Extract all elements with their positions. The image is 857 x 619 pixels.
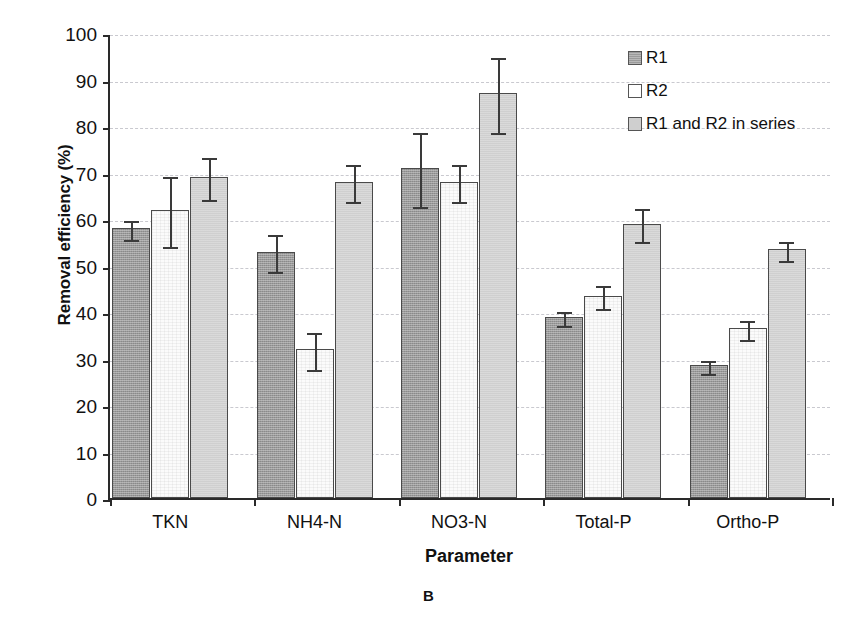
error-bar-cap-lower xyxy=(163,247,178,249)
legend-label: R2 xyxy=(646,81,668,101)
y-tick-label: 100 xyxy=(65,24,97,46)
error-bar-cap-lower xyxy=(413,207,428,209)
gridline xyxy=(110,175,830,176)
error-bar-cap-upper xyxy=(491,58,506,60)
bar-total-p-series-3 xyxy=(623,224,661,498)
x-tick-mark xyxy=(543,498,545,506)
legend-item: R1 and R2 in series xyxy=(628,114,795,134)
y-tick-mark xyxy=(103,454,110,456)
error-bar-cap-lower xyxy=(740,340,755,342)
error-bar-cap-lower xyxy=(701,374,716,376)
error-bar-cap-lower xyxy=(307,370,322,372)
bar-total-p-series-1 xyxy=(545,317,583,498)
error-bar-cap-upper xyxy=(596,286,611,288)
y-tick-mark xyxy=(103,82,110,84)
y-tick-label: 0 xyxy=(86,489,97,511)
error-bar-cap-upper xyxy=(202,158,217,160)
y-tick-mark xyxy=(103,35,110,37)
bar-nh4-n-series-1 xyxy=(257,252,295,498)
y-tick-label: 60 xyxy=(76,210,97,232)
legend-swatch-icon xyxy=(628,84,642,98)
y-tick-mark xyxy=(103,221,110,223)
error-bar-cap-upper xyxy=(413,133,428,135)
bar-total-p-series-2 xyxy=(584,296,622,498)
error-bar-cap-upper xyxy=(346,165,361,167)
y-tick-mark xyxy=(103,175,110,177)
y-tick-mark xyxy=(103,128,110,130)
y-tick-mark xyxy=(103,314,110,316)
error-bar-cap-lower xyxy=(268,272,283,274)
bar-tkn-series-1 xyxy=(112,228,150,498)
error-bar-cap-upper xyxy=(557,312,572,314)
error-bar-line xyxy=(498,58,500,132)
error-bar-cap-upper xyxy=(163,177,178,179)
error-bar-line xyxy=(354,165,356,202)
y-tick-label: 10 xyxy=(76,443,97,465)
error-bar-line xyxy=(315,333,317,370)
bar-tkn-series-3 xyxy=(190,177,228,498)
error-bar-cap-upper xyxy=(124,221,139,223)
legend-item: R2 xyxy=(628,81,795,101)
y-tick-mark xyxy=(103,268,110,270)
error-bar-line xyxy=(748,321,750,340)
error-bar-cap-lower xyxy=(557,326,572,328)
error-bar-cap-lower xyxy=(596,309,611,311)
y-tick-mark xyxy=(103,407,110,409)
error-bar-line xyxy=(642,209,644,242)
panel-label: B xyxy=(0,587,857,604)
y-tick-label: 40 xyxy=(76,303,97,325)
y-tick-label: 90 xyxy=(76,71,97,93)
y-tick-label: 50 xyxy=(76,257,97,279)
bar-ortho-p-series-1 xyxy=(690,365,728,498)
bar-no3-n-series-1 xyxy=(401,168,439,498)
error-bar-line xyxy=(564,312,566,326)
error-bar-cap-lower xyxy=(779,261,794,263)
error-bar-cap-lower xyxy=(491,133,506,135)
bar-no3-n-series-2 xyxy=(440,182,478,498)
y-tick-mark xyxy=(103,361,110,363)
bar-no3-n-series-3 xyxy=(479,93,517,498)
legend: R1 R2 R1 and R2 in series xyxy=(628,48,795,147)
error-bar-line xyxy=(131,221,133,240)
y-tick-label: 30 xyxy=(76,350,97,372)
x-tick-mark xyxy=(688,498,690,506)
bar-tkn-series-2 xyxy=(151,210,189,498)
error-bar-line xyxy=(459,165,461,202)
bar-ortho-p-series-2 xyxy=(729,328,767,498)
error-bar-cap-upper xyxy=(635,209,650,211)
x-tick-mark xyxy=(254,498,256,506)
figure-panel-b: Removal efficiency (%) 01020304050607080… xyxy=(0,0,857,619)
x-tick-label-nh4-n: NH4-N xyxy=(287,512,342,533)
error-bar-cap-upper xyxy=(701,361,716,363)
y-axis-title: Removal efficiency (%) xyxy=(55,40,75,430)
x-tick-mark xyxy=(399,498,401,506)
legend-item: R1 xyxy=(628,48,795,68)
y-tick-mark xyxy=(103,500,110,502)
error-bar-line xyxy=(209,158,211,200)
error-bar-line xyxy=(170,177,172,247)
error-bar-cap-upper xyxy=(779,242,794,244)
error-bar-cap-upper xyxy=(452,165,467,167)
gridline xyxy=(110,35,830,36)
y-tick-label: 20 xyxy=(76,396,97,418)
x-tick-label-tkn: TKN xyxy=(152,512,188,533)
legend-label: R1 and R2 in series xyxy=(646,114,795,134)
error-bar-cap-upper xyxy=(307,333,322,335)
x-tick-label-total-p: Total-P xyxy=(575,512,631,533)
legend-swatch-icon xyxy=(628,51,642,65)
error-bar-cap-lower xyxy=(452,202,467,204)
bar-ortho-p-series-3 xyxy=(768,249,806,498)
error-bar-line xyxy=(603,286,605,309)
bar-nh4-n-series-3 xyxy=(335,182,373,498)
error-bar-cap-lower xyxy=(346,202,361,204)
y-tick-label: 70 xyxy=(76,164,97,186)
x-tick-label-ortho-p: Ortho-P xyxy=(716,512,779,533)
legend-label: R1 xyxy=(646,48,668,68)
x-axis-title: Parameter xyxy=(108,546,830,567)
x-tick-mark xyxy=(110,498,112,506)
error-bar-cap-lower xyxy=(202,200,217,202)
error-bar-line xyxy=(709,361,711,375)
y-tick-label: 80 xyxy=(76,117,97,139)
error-bar-cap-upper xyxy=(740,321,755,323)
error-bar-line xyxy=(787,242,789,261)
